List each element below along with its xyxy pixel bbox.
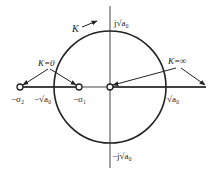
- pole-neg-sigma1-marker: [76, 84, 82, 90]
- neg-sigma1-label: −σ₁: [73, 94, 86, 104]
- k-zero-label: K=0: [37, 58, 55, 68]
- pole-neg-sigma2-marker: [17, 84, 23, 90]
- root-locus-diagram: K K=0 K=∞ j√a₀ −j√a₀ −σ₂ −√a₀ −σ₁ √a₀: [0, 0, 214, 173]
- k-infinity-arrow-right-icon: [181, 68, 205, 85]
- imag-neg-label: −j√a₀: [112, 151, 132, 161]
- neg-sqrt-a0-label: −√a₀: [34, 94, 51, 104]
- zero-origin-marker: [107, 84, 113, 90]
- k-infinity-label: K=∞: [167, 56, 187, 66]
- k-zero-arrow-left-icon: [23, 69, 48, 85]
- pos-sqrt-a0-label: √a₀: [167, 94, 179, 104]
- k-direction-arrow-icon: [82, 21, 97, 27]
- neg-sigma2-label: −σ₂: [11, 94, 24, 104]
- k-direction-label: K: [71, 23, 80, 34]
- imag-pos-label: j√a₀: [113, 18, 129, 28]
